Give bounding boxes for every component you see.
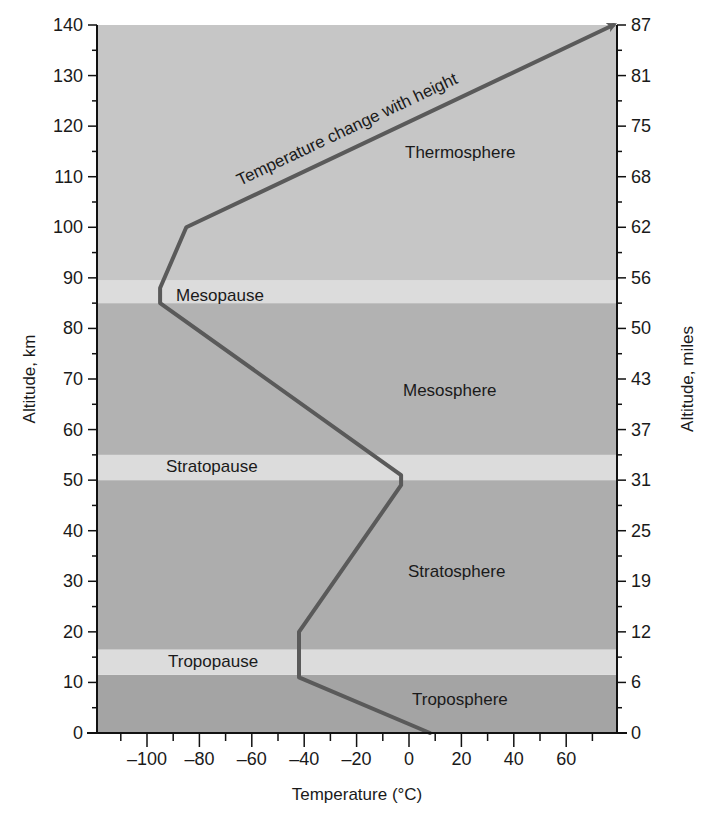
x-tick: –100 [127, 749, 167, 769]
band-mesosphere [97, 303, 617, 455]
y-tick-km: 60 [63, 420, 83, 440]
label-stratosphere: Stratosphere [408, 562, 505, 581]
y-tick-miles: 0 [631, 723, 641, 743]
y-tick-miles: 81 [631, 66, 651, 86]
x-tick: 60 [556, 749, 576, 769]
band-mesopause [97, 280, 617, 303]
y-tick-miles: 50 [631, 318, 651, 338]
y-tick-miles: 6 [631, 672, 641, 692]
band-thermosphere [97, 25, 617, 280]
y-tick-miles: 12 [631, 622, 651, 642]
y-tick-miles: 87 [631, 15, 651, 35]
y-tick-km: 20 [63, 622, 83, 642]
y-tick-miles: 19 [631, 571, 651, 591]
y-axis-right-title: Altitude, miles [678, 326, 697, 432]
label-stratopause: Stratopause [166, 457, 258, 476]
y-tick-km: 130 [53, 66, 83, 86]
y-tick-km: 90 [63, 268, 83, 288]
y-tick-km: 100 [53, 217, 83, 237]
y-tick-km: 30 [63, 571, 83, 591]
atmosphere-temperature-chart: ThermosphereMesopauseMesosphereStratopau… [0, 0, 719, 825]
y-tick-km: 50 [63, 470, 83, 490]
y-tick-miles: 62 [631, 217, 651, 237]
label-mesopause: Mesopause [176, 286, 264, 305]
y-tick-km: 10 [63, 672, 83, 692]
y-tick-km: 70 [63, 369, 83, 389]
y-tick-miles: 56 [631, 268, 651, 288]
x-tick: –80 [184, 749, 214, 769]
y-tick-miles: 75 [631, 116, 651, 136]
y-tick-km: 0 [73, 723, 83, 743]
y-tick-km: 140 [53, 15, 83, 35]
y-tick-km: 40 [63, 521, 83, 541]
x-tick: 20 [451, 749, 471, 769]
y-tick-miles: 31 [631, 470, 651, 490]
y-tick-miles: 25 [631, 521, 651, 541]
x-tick: 0 [404, 749, 414, 769]
label-thermosphere: Thermosphere [405, 143, 516, 162]
label-mesosphere: Mesosphere [403, 381, 497, 400]
x-tick: –20 [342, 749, 372, 769]
y-tick-miles: 37 [631, 420, 651, 440]
x-tick: –40 [289, 749, 319, 769]
label-tropopause: Tropopause [168, 652, 258, 671]
y-axis-left-title: Altitude, km [20, 335, 39, 424]
y-tick-miles: 43 [631, 369, 651, 389]
label-troposphere: Troposphere [412, 690, 508, 709]
y-tick-km: 110 [54, 167, 83, 187]
x-tick: 40 [504, 749, 524, 769]
band-stratosphere [97, 480, 617, 649]
x-tick: –60 [237, 749, 267, 769]
y-tick-miles: 68 [631, 167, 651, 187]
y-tick-km: 120 [53, 116, 83, 136]
x-axis-title: Temperature (°C) [292, 785, 423, 804]
y-tick-km: 80 [63, 318, 83, 338]
